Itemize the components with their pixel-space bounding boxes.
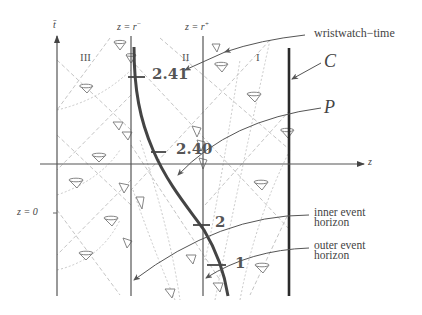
r-plus-base: z = r <box>185 21 205 32</box>
region-III-label: III <box>80 52 91 63</box>
region-I-label: I <box>256 52 260 63</box>
r-minus-base: z = r <box>117 21 137 32</box>
r-plus-sup: + <box>205 20 210 28</box>
tick-2-41: 2.41 <box>152 67 189 82</box>
wristwatch-time-label: wristwatch−time <box>314 27 395 39</box>
C-label: C <box>324 52 336 70</box>
outer-event-horizon-label: outer event horizon <box>314 240 365 260</box>
tick-2-40: 2.40 <box>176 142 213 157</box>
inner-event-horizon-label: inner event horizon <box>314 207 365 227</box>
tick-1: 1 <box>235 256 245 271</box>
tick-2: 2 <box>215 215 225 230</box>
region-II-label: II <box>182 52 189 63</box>
z-axis-label: z <box>368 157 372 167</box>
worldline-tick-marks <box>128 77 226 265</box>
t-axis-label: t̄ <box>53 20 56 30</box>
outer-horizon-line2: horizon <box>314 250 365 260</box>
P-label: P <box>324 98 335 116</box>
r-minus-sup: − <box>137 20 142 28</box>
spacetime-diagram: t̄ z z = 0 z = r− z = r+ III II I 2.41 2… <box>0 0 422 315</box>
r-plus-label: z = r+ <box>185 21 209 32</box>
r-minus-label: z = r− <box>117 21 141 32</box>
inner-horizon-line2: horizon <box>314 217 365 227</box>
z-zero-label: z = 0 <box>17 207 38 217</box>
